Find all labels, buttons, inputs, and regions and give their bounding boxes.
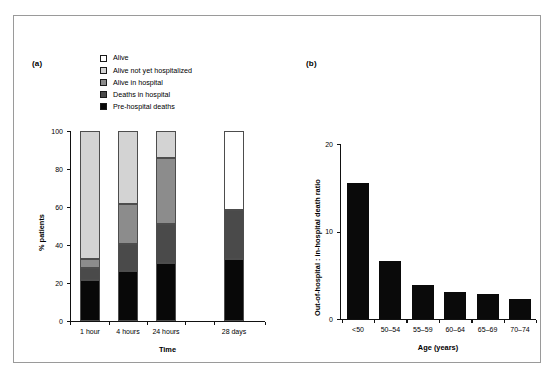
chart-b-x-tick-label: 70–74 (510, 326, 529, 333)
panel-a-label: (a) (32, 59, 42, 68)
chart-b-y-tick (337, 144, 340, 145)
chart-b-bar (477, 294, 499, 319)
chart-a-x-axis-title: Time (159, 346, 176, 353)
chart-a-y-tick-label: 100 (51, 128, 63, 135)
chart-a-bar-segment (118, 204, 138, 244)
chart-a-bar-segment (80, 131, 100, 259)
chart-b-y-tick (337, 319, 340, 320)
chart-a-x-tick (214, 322, 215, 325)
chart-a-bar-segment (224, 131, 244, 210)
chart-a-stacked-bar (80, 131, 100, 321)
chart-a-bar-segment (156, 224, 176, 263)
chart-a-bar-segment (156, 131, 176, 158)
legend-swatch-icon (100, 67, 107, 74)
chart-b-x-tick (342, 320, 343, 323)
chart-b-bar (412, 285, 434, 319)
legend-item-label: Alive (113, 54, 129, 61)
chart-a-bar-segment (224, 259, 244, 321)
figure-frame: (a) AliveAlive not yet hospitalizedAlive… (13, 15, 541, 363)
chart-a-y-tick-label: 80 (55, 166, 63, 173)
chart-a-y-tick-label: 0 (59, 318, 63, 325)
chart-b-x-tick-label: 50–54 (381, 326, 400, 333)
chart-b-bar (444, 292, 466, 319)
legend-item: Alive not yet hospitalized (100, 64, 250, 76)
legend-item-label: Deaths in hospital (113, 91, 170, 98)
chart-b-y-tick-label: 10 (325, 228, 333, 235)
chart-a-stacked-bar (224, 131, 244, 321)
chart-a-y-tick (67, 245, 70, 246)
chart-b-bar (509, 299, 531, 319)
chart-a-stacked-bar (118, 131, 138, 321)
chart-b-x-tick-label: 60–64 (445, 326, 464, 333)
chart-b-x-tick (407, 320, 408, 323)
legend-item-label: Alive not yet hospitalized (113, 67, 192, 74)
chart-b-x-tick-label: <50 (352, 326, 364, 333)
chart-a-x-tick (109, 322, 110, 325)
chart-b-y-axis-title: Out-of-hospital : in-hospital death rati… (314, 179, 321, 316)
chart-a-x-tick-label: 28 days (222, 328, 247, 335)
chart-a-x-tick (147, 322, 148, 325)
chart-b-y-tick (337, 232, 340, 233)
chart-a-y-axis-title: % patients (38, 214, 45, 251)
chart-b-bar (347, 183, 369, 319)
legend: AliveAlive not yet hospitalizedAlive in … (100, 52, 250, 113)
chart-a-bar-segment (156, 158, 176, 225)
chart-b-y-axis-line (340, 144, 341, 319)
panel-b-label: (b) (306, 59, 317, 68)
chart-a-y-tick-label: 60 (55, 204, 63, 211)
chart-a-bar-segment (118, 131, 138, 204)
legend-swatch-icon (100, 91, 107, 98)
legend-item: Alive in hospital (100, 76, 250, 88)
legend-swatch-icon (100, 79, 107, 86)
chart-b-x-tick-label: 55–59 (413, 326, 432, 333)
chart-a-y-tick (67, 207, 70, 208)
chart-b-y-tick-label: 0 (329, 316, 333, 323)
chart-a-x-tick (265, 322, 266, 325)
chart-a-y-axis-line (70, 131, 71, 321)
legend-swatch-icon (100, 103, 107, 110)
chart-a-x-tick (185, 322, 186, 325)
chart-a-x-tick-label: 4 hours (116, 328, 139, 335)
chart-a-y-tick-label: 40 (55, 242, 63, 249)
chart-b-x-tick (374, 320, 375, 323)
chart-a-bar-segment (118, 271, 138, 321)
legend-item: Pre-hospital deaths (100, 101, 250, 113)
chart-a-x-tick-label: 1 hour (80, 328, 100, 335)
chart-b-y-tick-label: 20 (325, 141, 333, 148)
chart-b-x-tick (536, 320, 537, 323)
legend-swatch-icon (100, 55, 107, 62)
chart-b-x-tick (472, 320, 473, 323)
chart-a-x-axis-line (70, 321, 265, 322)
chart-a-y-tick-label: 20 (55, 280, 63, 287)
chart-b-x-tick (439, 320, 440, 323)
chart-b-bar (379, 261, 401, 319)
chart-a-y-tick (67, 131, 70, 132)
chart-a-y-tick (67, 169, 70, 170)
chart-a-bar-segment (80, 259, 100, 268)
chart-a-bar-segment (80, 268, 100, 280)
chart-b-x-tick-label: 65–69 (478, 326, 497, 333)
legend-item-label: Alive in hospital (113, 79, 163, 86)
chart-b-x-tick (504, 320, 505, 323)
chart-a-x-tick-label: 24 hours (152, 328, 179, 335)
legend-item: Deaths in hospital (100, 89, 250, 101)
chart-a-bar-segment (156, 263, 176, 321)
chart-a-bar-segment (80, 280, 100, 321)
legend-item: Alive (100, 52, 250, 64)
chart-a-bar-segment (118, 244, 138, 271)
chart-b-x-axis-title: Age (years) (418, 344, 458, 351)
legend-item-label: Pre-hospital deaths (113, 103, 175, 110)
chart-b-x-axis-line (340, 319, 536, 320)
chart-a-x-tick (70, 322, 71, 325)
chart-a-stacked-bar (156, 131, 176, 321)
chart-a-bar-segment (224, 210, 244, 259)
chart-a-y-tick (67, 283, 70, 284)
